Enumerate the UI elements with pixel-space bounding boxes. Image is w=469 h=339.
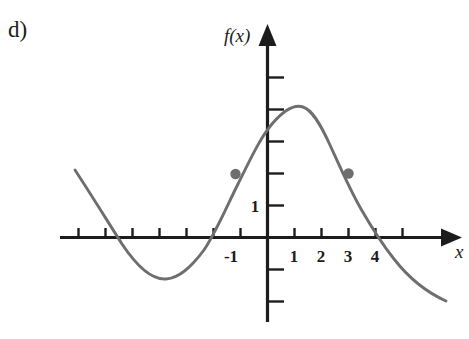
x-tick-label-minus1: -1 [224,247,238,266]
y-tick-label-1: 1 [251,197,260,216]
marked-point-left [230,169,240,179]
y-axis-label: f(x) [224,25,250,47]
x-tick-label-4: 4 [371,247,380,266]
x-tick-label-2: 2 [317,247,326,266]
part-label: d) [8,18,27,41]
x-axis-label: x [454,241,464,262]
function-graph-figure: d) [0,0,469,339]
marked-point-right [343,168,353,178]
y-axis-ticks [268,78,285,302]
y-axis-arrow-icon [259,24,277,46]
coordinate-plot: f(x) x -1 1 2 3 4 1 [0,0,469,339]
x-tick-label-1: 1 [290,247,299,266]
x-tick-label-3: 3 [344,247,353,266]
function-curve [75,106,446,301]
